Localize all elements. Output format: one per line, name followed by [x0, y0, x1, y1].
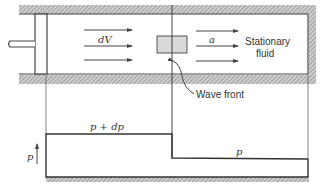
flow-arrows-right: a — [196, 31, 238, 61]
piston — [35, 14, 47, 74]
piston-assembly — [9, 14, 48, 74]
label-p-low: p — [236, 146, 243, 157]
wave-propagation-diagram: dV a Stationary fluid Wave front p + dp … — [0, 0, 321, 188]
label-a: a — [209, 34, 215, 45]
label-p-axis: p — [27, 151, 34, 162]
label-p-plus-dp: p + dp — [90, 121, 125, 132]
pressure-axis: p — [27, 144, 37, 164]
flow-arrows-left: dV — [84, 30, 132, 60]
right-wall-hatch — [309, 5, 316, 84]
pressure-curve — [46, 134, 308, 177]
bottom-wall-hatch — [19, 75, 316, 84]
label-stationary: Stationary — [245, 36, 290, 47]
label-dV: dV — [98, 34, 113, 45]
top-wall-hatch — [19, 5, 316, 14]
label-wave-front: Wave front — [196, 89, 244, 100]
baseline-hatch — [46, 177, 309, 182]
piston-rod — [9, 41, 36, 47]
pressure-profile: p + dp p — [46, 121, 309, 182]
label-fluid: fluid — [256, 48, 274, 59]
